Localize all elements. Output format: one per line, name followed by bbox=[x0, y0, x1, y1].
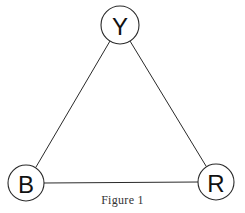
triangle-graph-diagram: Y B R bbox=[0, 0, 245, 213]
edge-y-r bbox=[130, 41, 206, 166]
edge-b-r bbox=[44, 182, 198, 183]
edge-y-b bbox=[36, 41, 110, 167]
node-y: Y bbox=[101, 6, 139, 44]
node-y-label: Y bbox=[112, 13, 128, 40]
figure-caption: Figure 1 bbox=[0, 193, 245, 208]
